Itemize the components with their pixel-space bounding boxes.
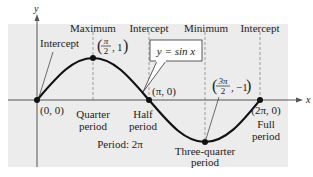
- label-half-2: period: [129, 120, 158, 132]
- coord-two-pi: (2π, 0): [251, 104, 281, 117]
- period-text: Period: 2π: [97, 138, 143, 150]
- coord-minimum-den: 2: [221, 86, 226, 96]
- header-intercept-pi: Intercept: [129, 22, 168, 34]
- point-two-pi: [257, 97, 263, 103]
- coord-minimum-num: 3π: [217, 76, 228, 86]
- coord-origin: (0, 0): [40, 104, 64, 117]
- header-intercept-two-pi: Intercept: [240, 22, 279, 34]
- sine-key-points-diagram: x y Maximum Intercept Minimum Intercept …: [0, 0, 313, 177]
- point-pi: [146, 97, 152, 103]
- label-three-quarter-2: period: [191, 156, 220, 168]
- y-axis-arrow-icon: [35, 14, 40, 21]
- curve-label: y = sin x: [156, 45, 195, 57]
- callout-joint: [156, 59, 166, 62]
- coord-maximum-y: 1: [117, 41, 123, 53]
- label-intercept-origin: Intercept: [40, 37, 79, 49]
- paren-close: ): [246, 77, 251, 95]
- point-origin: [34, 97, 40, 103]
- label-quarter-1: Quarter: [76, 108, 110, 120]
- coord-maximum-den: 2: [104, 46, 109, 56]
- label-full-2: period: [252, 130, 281, 142]
- coord-pi: (π, 0): [152, 85, 176, 98]
- coord-maximum-num: π: [104, 36, 109, 46]
- comma: ,: [112, 41, 115, 53]
- x-axis-arrow-icon: [296, 98, 303, 103]
- label-half-1: Half: [133, 108, 153, 120]
- label-quarter-2: period: [79, 120, 108, 132]
- point-maximum: [90, 55, 96, 61]
- label-full-1: Full: [257, 118, 275, 130]
- paren-close: ): [123, 37, 128, 55]
- header-maximum: Maximum: [70, 22, 116, 34]
- y-axis-label: y: [33, 3, 39, 14]
- x-axis-label: x: [305, 94, 311, 105]
- comma: ,: [231, 81, 234, 93]
- header-minimum: Minimum: [184, 22, 228, 34]
